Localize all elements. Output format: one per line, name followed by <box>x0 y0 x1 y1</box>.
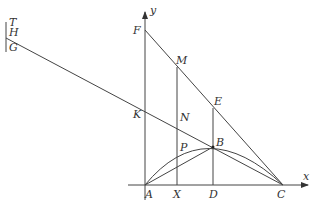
label-M: M <box>175 54 188 67</box>
label-C: C <box>277 188 286 201</box>
label-D: D <box>208 188 218 201</box>
label-H: H <box>8 26 19 39</box>
line-A-B <box>145 147 213 185</box>
label-X: X <box>172 188 182 201</box>
label-A: A <box>144 188 153 201</box>
label-B: B <box>215 136 224 149</box>
label-G: G <box>9 41 18 54</box>
label-F: F <box>132 24 141 37</box>
geometry-diagram: y x T H G F M E K N P B A X D C <box>0 0 322 205</box>
curve-A-P-B-C <box>145 149 283 186</box>
label-E: E <box>213 95 222 108</box>
label-N: N <box>179 111 190 124</box>
label-x-axis: x <box>303 170 310 183</box>
label-P: P <box>179 141 188 154</box>
label-K: K <box>132 108 142 121</box>
point-B-dot <box>212 146 215 149</box>
label-y-axis: y <box>149 4 157 17</box>
